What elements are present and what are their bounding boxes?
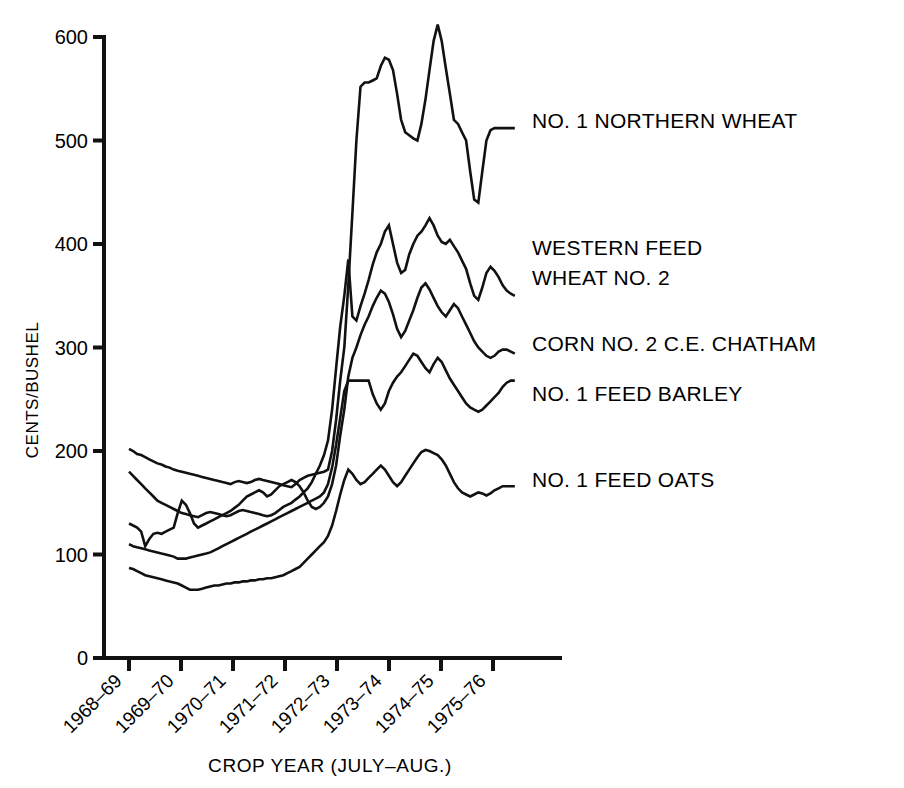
y-tick-label: 100: [55, 544, 88, 566]
series-label-corn: CORN NO. 2 C.E. CHATHAM: [532, 332, 816, 355]
y-tick-label: 400: [55, 233, 88, 255]
series-label-northern-wheat: NO. 1 NORTHERN WHEAT: [532, 109, 797, 132]
y-tick-label: 0: [77, 647, 88, 669]
y-tick-label: 200: [55, 440, 88, 462]
y-tick-label: 300: [55, 337, 88, 359]
y-tick-label: 600: [55, 26, 88, 48]
y-axis-title: CENTS/BUSHEL: [23, 322, 42, 458]
x-axis-title: CROP YEAR (JULY–AUG.): [208, 755, 452, 776]
series-label-western-feed-wheat-line1: WESTERN FEED: [532, 236, 702, 259]
series-label-feed-barley: NO. 1 FEED BARLEY: [532, 382, 743, 405]
series-label-feed-oats: NO. 1 FEED OATS: [532, 468, 715, 491]
line-chart-canvas: 0100200300400500600 1968–691969–701970–7…: [0, 0, 904, 788]
chart-figure: 0100200300400500600 1968–691969–701970–7…: [0, 0, 904, 788]
series-label-western-feed-wheat-line2: WHEAT NO. 2: [532, 266, 670, 289]
y-tick-label: 500: [55, 130, 88, 152]
